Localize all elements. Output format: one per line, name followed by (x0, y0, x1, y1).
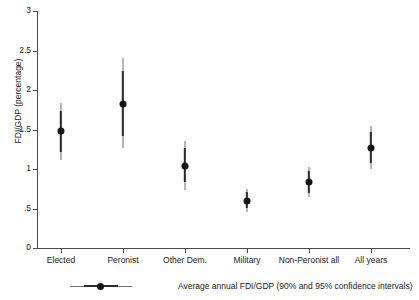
y-tick-mark (33, 248, 37, 249)
x-tick-label: Elected (47, 256, 75, 265)
x-tick-mark (247, 249, 248, 253)
x-tick-mark (61, 249, 62, 253)
y-tick-mark (33, 209, 37, 210)
legend-label: Average annual FDI/GDP (90% and 95% conf… (178, 281, 413, 291)
x-tick-mark (309, 249, 310, 253)
x-axis-line (37, 248, 410, 249)
plot-area (38, 11, 410, 248)
y-tick-mark (33, 51, 37, 52)
y-tick-mark (33, 11, 37, 12)
y-tick-label: 3 (0, 6, 31, 15)
y-tick-label: 1.5 (0, 125, 31, 134)
y-tick-label: 2 (0, 85, 31, 94)
x-tick-mark (123, 249, 124, 253)
x-tick-label: All years (355, 256, 388, 265)
legend-marker-dot (97, 283, 104, 290)
data-point-marker (120, 101, 127, 108)
data-point-marker (244, 197, 251, 204)
data-point-marker (182, 162, 189, 169)
data-point-marker (306, 179, 313, 186)
data-point-marker (368, 144, 375, 151)
x-tick-label: Non-Peronist all (279, 256, 339, 265)
legend-key-symbol (70, 282, 132, 291)
x-tick-label: Peronist (107, 256, 138, 265)
y-tick-mark (33, 169, 37, 170)
x-tick-mark (371, 249, 372, 253)
chart-legend: Average annual FDI/GDP (90% and 95% conf… (70, 277, 410, 295)
x-tick-label: Military (234, 256, 261, 265)
y-tick-mark (33, 130, 37, 131)
y-tick-mark (33, 90, 37, 91)
chart-figure: FDI/GDP (percentage) 0.511.522.53 Electe… (0, 0, 419, 300)
x-tick-label: Other Dem. (163, 256, 207, 265)
y-tick-label: 2.5 (0, 46, 31, 55)
y-tick-label: .5 (0, 204, 31, 213)
x-tick-mark (185, 249, 186, 253)
y-tick-label: 1 (0, 164, 31, 173)
y-tick-label: 0 (0, 243, 31, 252)
data-point-marker (58, 128, 65, 135)
